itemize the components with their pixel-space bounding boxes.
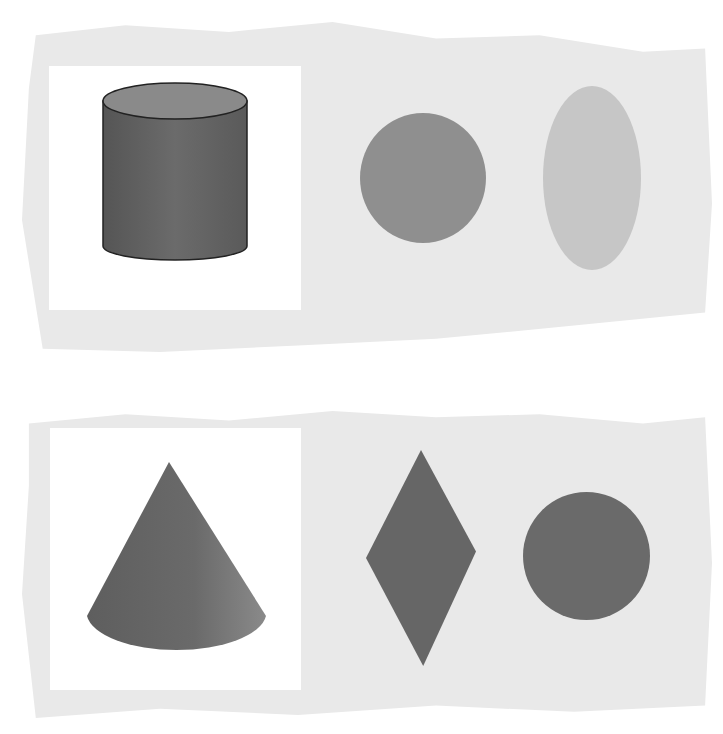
cylinder-shape — [49, 66, 301, 310]
row-2-solid-card — [50, 428, 301, 690]
row-1-solid-card — [49, 66, 301, 310]
row-1-circle-projection — [360, 113, 486, 243]
row-1-ellipse-projection — [543, 86, 641, 270]
cone-shape — [50, 428, 301, 690]
row-2-circle-projection — [523, 492, 650, 620]
